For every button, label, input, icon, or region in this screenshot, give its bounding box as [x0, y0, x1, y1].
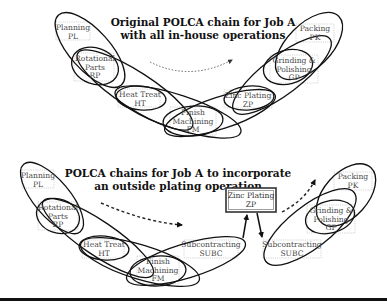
- bottom-flow-arrow-1: [101, 203, 182, 225]
- top-title-line2: with all in-house operations: [120, 29, 286, 41]
- bottom-title-line1: POLCA chains for Job A to incorporate: [65, 167, 292, 179]
- top-flow-arrow: [150, 60, 232, 72]
- polca-diagram: Original POLCA chain for Job A with all …: [0, 0, 387, 307]
- bottom-rule: [0, 298, 387, 301]
- top-panel: Original POLCA chain for Job A with all …: [44, 1, 355, 149]
- arrow-zp-to-subc: [257, 213, 262, 237]
- arrow-subc-to-zp: [243, 215, 247, 238]
- bottom-panel: POLCA chains for Job A to incorporate an…: [10, 153, 387, 297]
- top-title-line1: Original POLCA chain for Job A: [111, 16, 296, 28]
